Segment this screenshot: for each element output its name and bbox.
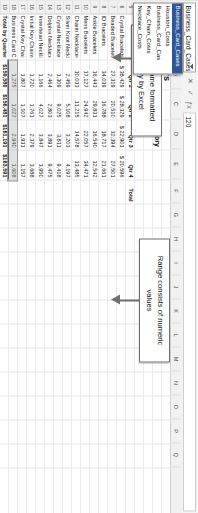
table-cell[interactable]: 11,215 xyxy=(72,91,81,117)
name-box-dropdown-item[interactable]: Business_Card_Cases xyxy=(173,3,183,73)
row-header[interactable]: 10 xyxy=(81,0,90,13)
name-box-dropdown-item[interactable]: Necklace_Costs xyxy=(135,3,145,73)
selected-range-highlight[interactable] xyxy=(7,59,18,181)
table-cell[interactable]: 2,459 xyxy=(63,61,72,87)
column-header[interactable]: O xyxy=(171,395,181,419)
table-row-label[interactable]: Dolphin Necklaces xyxy=(45,15,54,57)
table-cell[interactable]: 24,942 xyxy=(81,91,90,117)
table-row-label[interactable]: Initial Key Chains xyxy=(27,15,36,57)
table-cell[interactable]: 29,831 xyxy=(90,91,99,117)
table-row-label[interactable]: Silver Knot Necklaces xyxy=(63,15,72,57)
table-cell[interactable]: 1,166 xyxy=(36,61,45,87)
table-cell[interactable]: 4,027 xyxy=(36,91,45,117)
table-cell[interactable]: 2,379 xyxy=(27,121,36,147)
table-cell[interactable]: 34,471 xyxy=(81,151,90,177)
table-cell[interactable]: 9,418 xyxy=(54,151,63,177)
table-row-label[interactable]: Mens Bracelets xyxy=(81,15,90,57)
column-header[interactable]: P xyxy=(171,419,181,443)
table-cell[interactable]: 14,578 xyxy=(72,121,81,147)
table-cell[interactable]: $ 38,429 xyxy=(117,61,126,87)
table-cell[interactable]: 22,057 xyxy=(81,121,90,147)
row-header[interactable]: 14 xyxy=(45,0,54,13)
column-header[interactable]: L xyxy=(171,323,181,347)
row-header[interactable]: 13 xyxy=(54,0,63,13)
table-cell[interactable]: 3,688 xyxy=(27,151,36,177)
column-header[interactable]: D xyxy=(171,119,181,149)
chevron-down-icon[interactable] xyxy=(190,63,193,69)
table-cell[interactable]: 16,788 xyxy=(99,91,108,117)
table-row-label[interactable]: ID Bracelets xyxy=(99,15,108,57)
column-header[interactable]: N xyxy=(171,371,181,395)
table-cell[interactable]: 3,203 xyxy=(63,121,72,147)
table-cell[interactable]: 34,039 xyxy=(99,61,108,87)
table-cell[interactable]: 17,127 xyxy=(81,61,90,87)
column-header[interactable]: C xyxy=(171,89,181,119)
enter-check-icon[interactable]: ✓ xyxy=(186,88,194,97)
row-header[interactable]: 8 xyxy=(99,0,108,13)
table-cell[interactable]: $ 20,596 xyxy=(117,151,126,177)
table-cell[interactable]: 32,394 xyxy=(108,121,117,147)
table-cell[interactable]: 1,931 xyxy=(18,121,27,147)
column-header[interactable]: M xyxy=(171,347,181,371)
table-cell[interactable]: 9,025 xyxy=(54,91,63,117)
table-row-label[interactable]: Crystal Key Chains xyxy=(18,15,27,57)
table-row-label[interactable]: Total by Quarter xyxy=(0,15,9,57)
column-header[interactable]: E xyxy=(171,149,181,179)
table-cell[interactable]: 3,811 xyxy=(54,121,63,147)
table-cell[interactable]: 1,807 xyxy=(18,61,27,87)
table-cell[interactable]: 18,717 xyxy=(99,121,108,147)
table-cell[interactable]: 3,891 xyxy=(45,121,54,147)
table-row-label[interactable]: Beaded Bracelets xyxy=(108,15,117,57)
table-cell[interactable]: 21,661 xyxy=(99,151,108,177)
column-header[interactable]: G xyxy=(171,203,181,227)
table-row-label[interactable]: Crystal Necklaces xyxy=(54,15,63,57)
row-header[interactable]: 9 xyxy=(90,0,99,13)
row-header[interactable]: 18 xyxy=(9,0,18,13)
row-header[interactable]: 12 xyxy=(63,0,72,13)
table-row-label[interactable]: Business Card Cases xyxy=(9,15,18,57)
table-row-label[interactable]: Crystal Bracelets xyxy=(117,15,126,57)
table-row-label[interactable]: Innerheart Necklaces xyxy=(36,15,45,57)
table-cell[interactable]: 13,485 xyxy=(72,151,81,177)
table-cell[interactable]: 12,542 xyxy=(90,151,99,177)
table-cell[interactable]: 1,309 xyxy=(54,61,63,87)
table-cell[interactable]: 10,033 xyxy=(72,61,81,87)
name-box-dropdown-item[interactable]: Key_Chain_Costs xyxy=(144,3,154,73)
cancel-x-icon[interactable]: ✕ xyxy=(186,76,194,85)
table-cell[interactable]: 27,501 xyxy=(108,151,117,177)
fx-function-icon[interactable]: ƒx xyxy=(187,100,194,109)
table-cell[interactable]: 16,540 xyxy=(90,121,99,147)
column-header[interactable]: Q xyxy=(171,443,181,467)
name-box-dropdown-item[interactable]: Business_Card_Cas xyxy=(154,3,164,73)
table-cell[interactable]: 3,847 xyxy=(36,121,45,147)
column-header[interactable]: K xyxy=(171,299,181,323)
row-header[interactable]: 19 xyxy=(0,0,9,13)
table-cell[interactable]: 20,510 xyxy=(108,91,117,117)
table-cell[interactable]: 16,443 xyxy=(90,61,99,87)
table-cell[interactable]: $ 28,329 xyxy=(117,91,126,117)
formula-bar-input[interactable]: 120 xyxy=(184,112,197,511)
table-cell[interactable]: $ 22,901 xyxy=(117,121,126,147)
table-cell[interactable]: 2,464 xyxy=(45,61,54,87)
column-header[interactable]: I xyxy=(171,251,181,275)
table-cell[interactable]: 3,950 xyxy=(36,151,45,177)
table-cell[interactable]: 1,761 xyxy=(27,91,36,117)
table-cell[interactable]: 27,319 xyxy=(108,61,117,87)
column-header[interactable]: H xyxy=(171,227,181,251)
table-cell[interactable]: 1,720 xyxy=(27,61,36,87)
row-header[interactable]: 16 xyxy=(27,0,36,13)
table-cell[interactable]: 1,157 xyxy=(18,151,27,177)
table-cell[interactable]: 1,107 xyxy=(18,91,27,117)
name-box-dropdown[interactable]: Business_Card_CasesHouston_CostsBusiness… xyxy=(134,2,184,74)
table-cell[interactable]: 4,197 xyxy=(63,151,72,177)
table-row-label[interactable]: Ankle Bracelets xyxy=(90,15,99,57)
column-header[interactable]: F xyxy=(171,179,181,203)
table-cell[interactable]: 2,803 xyxy=(45,91,54,117)
table-cell[interactable]: 9,475 xyxy=(45,151,54,177)
row-header[interactable]: 11 xyxy=(72,0,81,13)
table-row-label[interactable]: Charm Necklaces xyxy=(72,15,81,57)
row-header[interactable]: 17 xyxy=(18,0,27,13)
row-header[interactable]: 6 xyxy=(117,0,126,13)
row-header[interactable]: 15 xyxy=(36,0,45,13)
column-header[interactable]: J xyxy=(171,275,181,299)
